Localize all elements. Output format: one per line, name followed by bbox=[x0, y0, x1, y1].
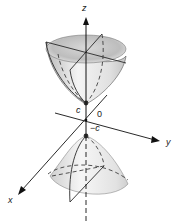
lower-sheet bbox=[48, 134, 128, 202]
z-arrow-icon bbox=[83, 17, 89, 25]
diagram-canvas bbox=[0, 0, 178, 224]
hyperboloid-diagram: z y x 0 c −c bbox=[0, 0, 178, 224]
lower-vertex-label: −c bbox=[90, 124, 100, 133]
origin-label: 0 bbox=[97, 110, 102, 119]
z-axis-label: z bbox=[82, 4, 87, 13]
upper-vertex-label: c bbox=[76, 106, 81, 115]
y-axis-label: y bbox=[166, 138, 171, 147]
x-axis-label: x bbox=[8, 196, 13, 205]
y-arrow-icon bbox=[151, 136, 160, 143]
